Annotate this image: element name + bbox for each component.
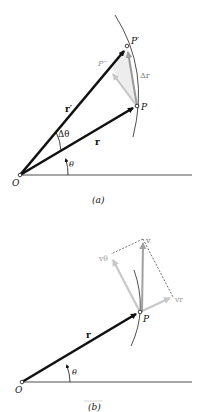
label-theta-b: θ: [72, 368, 77, 377]
label-v: v: [145, 236, 151, 245]
theta-arc-b: [67, 366, 70, 382]
label-p-b: P: [142, 314, 150, 324]
dashed-line-v-vr: [143, 239, 173, 297]
figure-a: O P P′ P′′ Δr r′ r Δθ θ (a): [12, 15, 192, 205]
point-p-b: [138, 310, 142, 314]
label-r-b: r: [86, 330, 91, 340]
theta-arc: [66, 160, 68, 175]
vector-r: [20, 108, 133, 175]
point-p-prime: [125, 44, 129, 48]
point-o: [18, 173, 22, 177]
point-p: [135, 104, 139, 108]
dashed-line-v-vtheta: [111, 239, 143, 254]
caption-b: (b): [88, 402, 101, 412]
label-r-prime: r′: [65, 104, 73, 114]
vector-v-r: [140, 298, 170, 312]
label-delta-r: Δr: [140, 71, 150, 80]
point-o-b: [20, 380, 24, 384]
label-origin: O: [12, 178, 20, 188]
label-origin-b: O: [15, 385, 23, 395]
figure-b: O P r v vθ vr θ (b): [15, 236, 192, 412]
vector-r-b: [22, 314, 136, 382]
label-p: P: [140, 102, 148, 112]
vector-v-theta: [113, 260, 140, 312]
label-theta: θ: [69, 160, 74, 169]
label-v-r: vr: [174, 295, 183, 304]
label-p-double-prime: P′′: [97, 59, 107, 68]
label-v-theta: vθ: [98, 254, 108, 263]
label-r: r: [95, 137, 100, 147]
label-delta-theta: Δθ: [58, 129, 69, 139]
caption-a: (a): [92, 195, 105, 205]
vector-v: [142, 243, 143, 312]
label-p-prime: P′: [130, 36, 139, 46]
